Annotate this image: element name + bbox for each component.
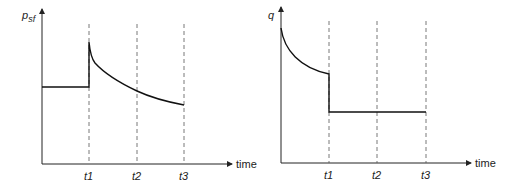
left-gridlines	[89, 24, 184, 164]
right-series-q	[281, 28, 426, 112]
figure: psf t1 t2 t3 time q t1 t2 t3 time	[0, 0, 516, 187]
right-chart: q t1 t2 t3 time	[268, 7, 496, 181]
right-tick-t3: t3	[421, 169, 431, 181]
left-chart: psf t1 t2 t3 time	[21, 9, 257, 182]
right-tick-t2: t2	[372, 169, 381, 181]
left-ylabel: psf	[21, 9, 37, 24]
right-ylabel: q	[268, 9, 275, 21]
left-tick-t2: t2	[132, 170, 141, 182]
left-series-psf	[42, 42, 184, 105]
right-xlabel: time	[475, 157, 496, 169]
left-tick-t1: t1	[84, 170, 93, 182]
left-tick-t3: t3	[179, 170, 189, 182]
left-xlabel: time	[236, 158, 257, 170]
right-gridlines	[329, 21, 426, 163]
right-tick-t1: t1	[324, 169, 333, 181]
